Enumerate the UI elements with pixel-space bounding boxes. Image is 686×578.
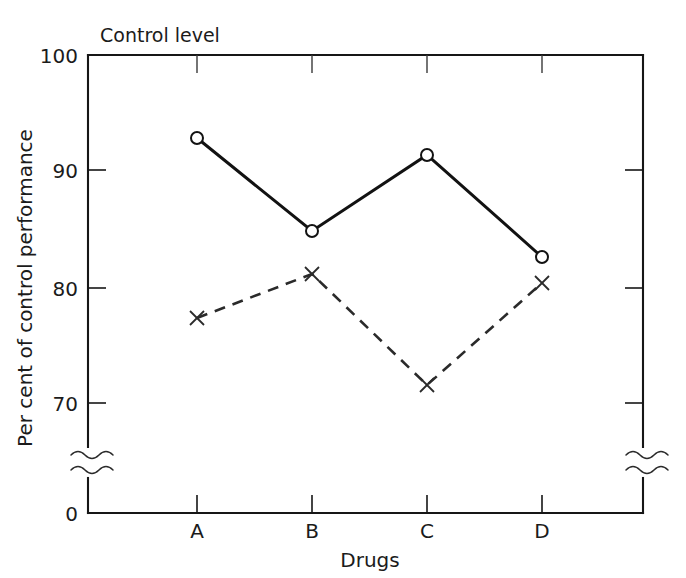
solid-circle-series-line: [197, 138, 542, 257]
y-tick-label-0: 0: [65, 502, 78, 526]
x-tick-label-a: A: [190, 519, 204, 543]
marker-circle-d: [536, 251, 548, 263]
y-axis-break-right: [626, 452, 668, 474]
dashed-series-markers: [190, 267, 549, 392]
y-axis-title: Per cent of control performance: [13, 129, 37, 447]
marker-x-a: [190, 311, 204, 325]
marker-circle-c: [421, 149, 433, 161]
y-tick-label-80: 80: [53, 277, 78, 301]
y-tick-label-100: 100: [40, 44, 78, 68]
y-axis-break-left: [71, 452, 113, 474]
marker-circle-b: [306, 225, 318, 237]
y-tick-label-90: 90: [53, 159, 78, 183]
x-tick-label-d: D: [534, 519, 549, 543]
line-chart-svg: 100 90 80 70 0 A B C D Control level Dru…: [0, 0, 686, 578]
y-tick-label-70: 70: [53, 392, 78, 416]
marker-x-c: [420, 378, 434, 392]
marker-circle-a: [191, 132, 203, 144]
marker-x-d: [535, 276, 549, 290]
dashed-cross-series-line: [197, 274, 542, 385]
x-tick-label-b: B: [305, 519, 319, 543]
x-axis-title: Drugs: [340, 548, 399, 572]
x-tick-label-c: C: [420, 519, 434, 543]
chart-figure: 100 90 80 70 0 A B C D Control level Dru…: [0, 0, 686, 578]
marker-x-b: [305, 267, 319, 281]
control-level-label: Control level: [100, 24, 220, 46]
solid-series-markers: [191, 132, 548, 263]
